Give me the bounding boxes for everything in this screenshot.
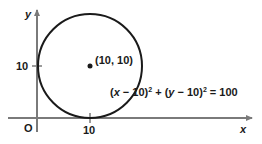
eq-part3: + (	[152, 86, 169, 98]
x-axis-label: x	[239, 123, 247, 135]
center-label: (10, 10)	[95, 54, 133, 66]
eq-part5: = 100	[207, 86, 238, 98]
y-axis-label: y	[24, 8, 32, 20]
x-tick-label: 10	[83, 124, 95, 136]
origin-label: O	[24, 122, 33, 134]
y-tick-label: 10	[16, 60, 28, 72]
eq-part2: − 10)	[120, 86, 149, 98]
center-point	[88, 64, 93, 69]
circle-equation: (x − 10)2 + (y − 10)2 = 100	[110, 86, 238, 98]
coordinate-diagram: y x O 10 10 (10, 10) (x − 10)2 + (y − 10…	[0, 0, 262, 144]
eq-part4: − 10)	[174, 86, 203, 98]
